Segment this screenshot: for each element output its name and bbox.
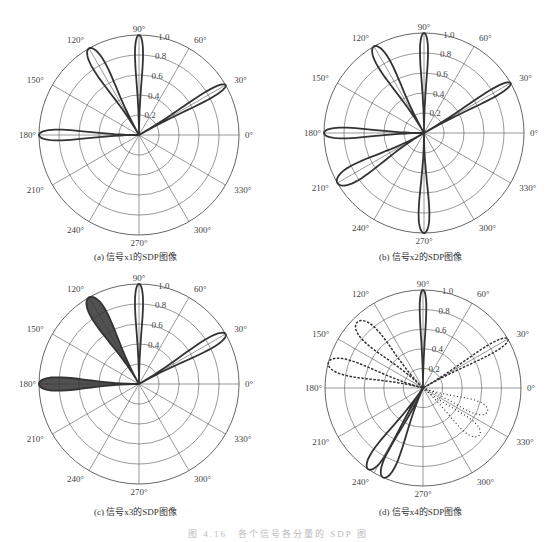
angle-tick-label: 240° [67,225,85,235]
angle-tick-label: 240° [352,223,370,233]
angle-tick-label: 0° [530,128,539,138]
angle-tick-label: 0° [245,379,254,389]
grid-spoke [338,339,423,388]
radial-tick-label: 0.8 [439,306,451,316]
angle-tick-label: 120° [67,35,85,45]
grid-spoke [139,384,189,471]
radial-tick-label: 0.2 [429,108,440,118]
radial-tick-label: 0.6 [436,69,448,79]
grid-spoke [139,384,226,434]
angle-tick-label: 30° [234,75,247,85]
angle-tick-label: 300° [194,474,212,484]
lobe-320 [423,388,480,437]
angle-tick-label: 120° [352,33,370,43]
polar-chart-c: 0°30°60°90°120°150°180°210°240°270°300°3… [19,273,254,497]
angle-tick-label: 60° [477,289,490,299]
grid-spoke [52,384,139,434]
angle-tick-label: 330° [234,434,252,444]
polar-chart-b: 0°30°60°90°120°150°180°210°240°270°300°3… [304,22,539,246]
radial-tick-label: 0.6 [151,320,163,330]
angle-tick-label: 300° [477,477,495,487]
angle-tick-label: 330° [519,183,537,193]
radial-tick-label: 0.8 [155,300,167,310]
caption-c: (c) 信号x3的SDP图像 [94,505,177,518]
grid-spoke [424,133,511,183]
angle-tick-label: 60° [479,33,492,43]
angle-tick-label: 90° [133,24,146,34]
lobe-165 [328,358,423,388]
radial-tick-label: 1.0 [158,281,170,291]
angle-tick-label: 150° [27,75,45,85]
angle-tick-label: 210° [312,183,330,193]
radial-tick-label: 0.8 [440,49,452,59]
grid-spoke [423,388,508,437]
lobe-180 [39,377,139,390]
grid-spoke [374,303,423,388]
angle-tick-label: 150° [312,329,330,339]
lobe-236 [367,388,423,470]
grid-spoke [423,303,472,388]
radial-tick-label: 0.4 [432,344,444,354]
radial-tick-label: 1.0 [442,286,454,296]
angle-tick-label: 30° [519,73,532,83]
radial-tick-label: 0.2 [428,364,439,374]
lobe-210 [337,133,424,186]
angle-tick-label: 60° [194,284,207,294]
radial-tick-label: 1.0 [158,32,170,42]
angle-tick-label: 270° [414,489,432,499]
lobe-120 [372,46,424,133]
radial-tick-label: 0.6 [435,325,447,335]
radial-tick-label: 0.4 [148,91,160,101]
angle-tick-label: 180° [19,130,37,140]
polar-chart-a: 0°30°60°90°120°150°180°210°240°270°300°3… [19,24,254,248]
angle-tick-label: 270° [130,238,148,248]
angle-tick-label: 0° [245,130,254,140]
radial-tick-label: 0.2 [144,110,155,120]
angle-tick-label: 330° [517,437,535,447]
caption-a: (a) 信号x1的SDP图像 [94,250,177,263]
angle-tick-label: 300° [479,223,497,233]
grid-spoke [89,384,139,471]
sdp-figure: 0°30°60°90°120°150°180°210°240°270°300°3… [0,0,557,542]
angle-tick-label: 90° [133,273,146,283]
caption-d: (d) 信号x4的SDP图像 [379,505,462,518]
lobe-340 [423,388,488,415]
angle-tick-label: 240° [67,474,85,484]
angle-tick-label: 240° [352,477,370,487]
angle-tick-label: 210° [27,185,45,195]
lobe-120 [87,48,139,135]
lobe-120 [86,297,139,384]
angle-tick-label: 210° [27,434,45,444]
radial-tick-label: 1.0 [443,30,455,40]
angle-tick-label: 210° [312,437,330,447]
angle-tick-label: 180° [19,379,37,389]
angle-tick-label: 150° [27,324,45,334]
polar-chart-d: 0°30°60°90°120°150°180°210°240°270°300°3… [305,279,536,499]
grid-spoke [139,135,189,222]
radial-tick-label: 0.4 [433,89,445,99]
radial-tick-label: 0.8 [155,51,167,61]
grid-spoke [52,135,139,185]
angle-tick-label: 30° [517,329,530,339]
angle-tick-label: 30° [234,324,247,334]
angle-tick-label: 330° [234,185,252,195]
grid-spoke [139,135,226,185]
figure-caption: 图 4.16 各个信号各分量的 SDP 图 [188,527,368,540]
grid-spoke [423,388,472,473]
angle-tick-label: 300° [194,225,212,235]
angle-tick-label: 270° [415,236,433,246]
radial-tick-label: 0.6 [151,71,163,81]
angle-tick-label: 150° [312,73,330,83]
angle-tick-label: 0° [527,383,536,393]
grid-spoke [89,135,139,222]
angle-tick-label: 180° [304,128,322,138]
angle-tick-label: 270° [130,487,148,497]
angle-tick-label: 60° [194,35,207,45]
grid-spoke [424,133,474,220]
radial-tick-label: 0.4 [148,340,160,350]
angle-tick-label: 90° [417,279,430,289]
caption-b: (b) 信号x2的SDP图像 [379,250,462,263]
angle-tick-label: 120° [352,289,370,299]
angle-tick-label: 180° [305,383,323,393]
angle-tick-label: 90° [418,22,431,32]
